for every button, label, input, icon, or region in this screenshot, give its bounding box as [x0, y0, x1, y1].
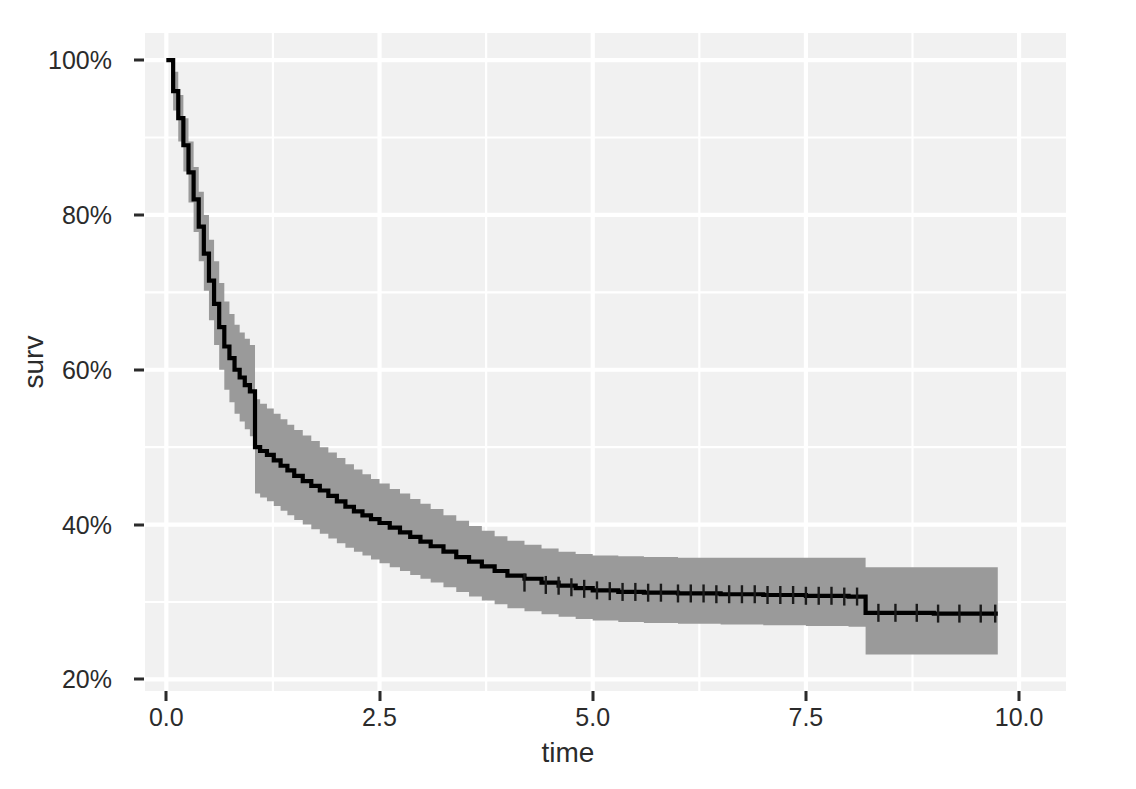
x-tick-mark [804, 691, 807, 701]
survival-step-line [166, 60, 997, 613]
x-tick-mark [165, 691, 168, 701]
x-tick-mark [378, 691, 381, 701]
survival-plot-figure: 20%40%60%80%100% 0.02.55.07.510.0 time s… [0, 0, 1136, 789]
y-tick-mark [134, 59, 144, 62]
y-tick-mark [134, 523, 144, 526]
plot-panel [145, 33, 1066, 691]
x-tick-label: 10.0 [995, 703, 1044, 732]
x-tick-mark [591, 691, 594, 701]
y-axis-tick-labels: 20%40%60%80%100% [0, 0, 112, 789]
x-tick-label: 0.0 [149, 703, 184, 732]
x-tick-label: 5.0 [575, 703, 610, 732]
y-tick-label: 100% [48, 46, 112, 75]
confidence-band [166, 60, 997, 655]
y-tick-mark [134, 213, 144, 216]
y-tick-label: 60% [62, 355, 112, 384]
y-tick-mark [134, 368, 144, 371]
x-tick-label: 2.5 [362, 703, 397, 732]
x-axis-title: time [0, 737, 1136, 769]
plot-canvas [145, 33, 1066, 691]
y-tick-label: 80% [62, 200, 112, 229]
x-tick-label: 7.5 [789, 703, 824, 732]
y-tick-mark [134, 678, 144, 681]
y-tick-label: 20% [62, 665, 112, 694]
y-axis-title: surv [18, 336, 50, 389]
x-tick-mark [1018, 691, 1021, 701]
y-tick-label: 40% [62, 510, 112, 539]
